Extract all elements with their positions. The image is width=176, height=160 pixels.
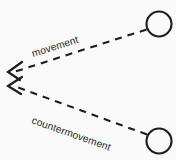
- diagram-canvas: movement countermovement: [0, 0, 176, 160]
- edge-label-countermovement: countermovement: [30, 115, 112, 153]
- edge-countermovement-line: [14, 86, 147, 135]
- edge-label-movement: movement: [30, 34, 79, 59]
- movement-countermovement-diagram: movement countermovement: [0, 0, 176, 160]
- lower-circle-node: [147, 129, 172, 154]
- upper-circle-node: [147, 12, 172, 37]
- arrowhead-countermovement-icon: [8, 77, 22, 94]
